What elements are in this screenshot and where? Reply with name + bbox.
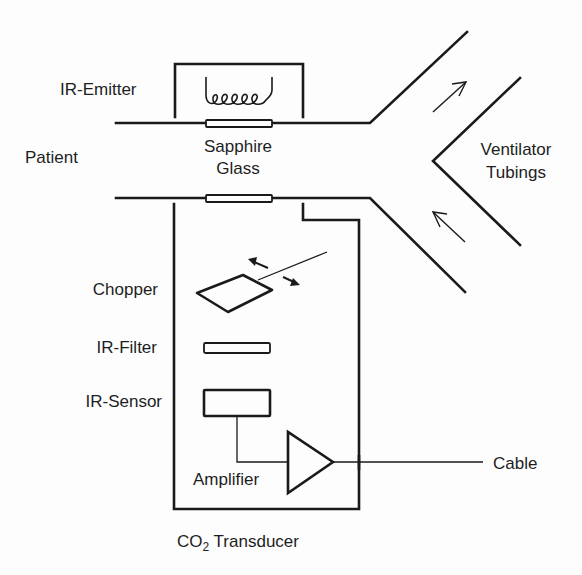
- amplifier-triangle: [288, 432, 333, 493]
- chopper-arrow-head-left: [248, 257, 257, 266]
- transducer-subscript: 2: [203, 540, 210, 554]
- co2-transducer-diagram: IR-Emitter Patient Sapphire Glass Ventil…: [0, 0, 582, 575]
- ir-sensor: [204, 390, 270, 416]
- label-ir-sensor: IR-Sensor: [40, 393, 162, 410]
- label-cable: Cable: [493, 455, 537, 472]
- inflow-arrow: [433, 212, 465, 242]
- transducer-suffix: Transducer: [209, 532, 299, 551]
- chopper-arrow-head-right: [290, 278, 300, 286]
- label-ir-filter: IR-Filter: [40, 339, 157, 356]
- ir-filter: [204, 343, 270, 353]
- label-patient: Patient: [25, 149, 78, 166]
- label-ventilator-line1: Ventilator: [462, 141, 570, 158]
- label-ventilator-line2: Tubings: [462, 164, 570, 181]
- label-chopper: Chopper: [40, 281, 158, 298]
- airway-bottom-wall: [116, 198, 465, 292]
- label-sapphire-line2: Glass: [188, 160, 288, 177]
- chopper-blade: [197, 275, 272, 312]
- transducer-prefix: CO: [177, 532, 203, 551]
- sapphire-glass-bottom: [206, 195, 272, 202]
- label-co2-transducer: CO2 Transducer: [177, 533, 299, 550]
- label-amplifier: Amplifier: [193, 471, 259, 488]
- chopper-rotation-arrow-left: [254, 262, 268, 268]
- airway-top-wall: [116, 32, 467, 123]
- label-sapphire-line1: Sapphire: [188, 138, 288, 155]
- chopper-shaft: [258, 252, 327, 280]
- sensor-amplifier-wire: [237, 416, 288, 462]
- emitter-coil-icon: [206, 77, 272, 104]
- outflow-arrow: [433, 82, 466, 112]
- ir-emitter-housing: [175, 64, 303, 117]
- label-ir-emitter: IR-Emitter: [60, 81, 137, 98]
- sapphire-glass-top: [206, 120, 272, 127]
- ventilator-y-split: [433, 78, 520, 245]
